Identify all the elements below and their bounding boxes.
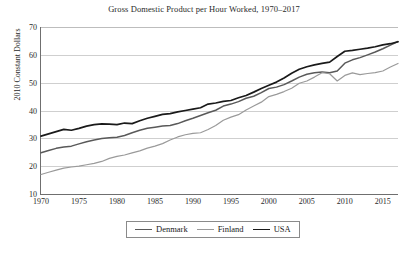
legend-item-usa[interactable]: USA bbox=[253, 224, 291, 234]
legend-item-finland[interactable]: Finland bbox=[197, 224, 244, 234]
legend-swatch-icon-usa bbox=[253, 229, 270, 230]
y-tick-label-30: 30 bbox=[29, 134, 37, 143]
series-lines bbox=[41, 27, 398, 194]
y-axis-label: 2010 Constant Dollars bbox=[13, 0, 22, 130]
x-tick-label-2015: 2015 bbox=[375, 197, 391, 206]
plot-area: 10203040506070 1970197519801985199019952… bbox=[40, 27, 398, 195]
y-tick-label-20: 20 bbox=[29, 162, 37, 171]
x-tick-label-1975: 1975 bbox=[71, 197, 87, 206]
legend-label: USA bbox=[274, 224, 291, 234]
legend-swatch-icon-denmark bbox=[135, 229, 152, 230]
legend-label: Finland bbox=[218, 224, 244, 234]
y-tick-label-70: 70 bbox=[29, 23, 37, 32]
legend-swatch-icon-finland bbox=[197, 229, 214, 230]
x-tick-label-1970: 1970 bbox=[33, 197, 49, 206]
chart-figure: Gross Domestic Product per Hour Worked, … bbox=[0, 0, 408, 255]
legend-item-denmark[interactable]: Denmark bbox=[135, 224, 188, 234]
legend-label: Denmark bbox=[156, 224, 188, 234]
y-tick-label-50: 50 bbox=[29, 78, 37, 87]
y-tick-label-40: 40 bbox=[29, 106, 37, 115]
x-tick-label-1995: 1995 bbox=[223, 197, 239, 206]
line-finland bbox=[41, 63, 398, 174]
x-tick-label-2000: 2000 bbox=[261, 197, 277, 206]
chart-title: Gross Domestic Product per Hour Worked, … bbox=[0, 4, 408, 14]
x-tick-label-2010: 2010 bbox=[337, 197, 353, 206]
x-tick-label-1980: 1980 bbox=[109, 197, 125, 206]
chart-legend: DenmarkFinlandUSA bbox=[126, 221, 300, 238]
x-tick-label-1985: 1985 bbox=[147, 197, 163, 206]
line-usa bbox=[41, 42, 398, 136]
x-tick-label-1990: 1990 bbox=[185, 197, 201, 206]
y-tick-label-60: 60 bbox=[29, 50, 37, 59]
line-denmark bbox=[41, 41, 398, 152]
x-tick-label-2005: 2005 bbox=[299, 197, 315, 206]
